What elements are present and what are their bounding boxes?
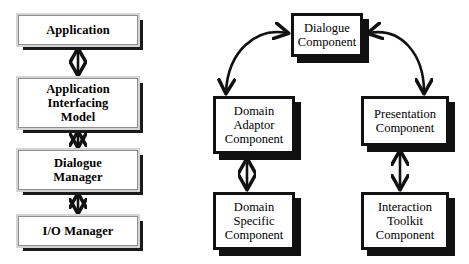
node-application-label: Application [46, 23, 110, 37]
node-dialogue-manager[interactable]: DialogueManager [18, 150, 138, 190]
node-dialogue-component[interactable]: DialogueComponent [291, 13, 363, 57]
node-interaction-toolkit-component-label: InteractionToolkitComponent [376, 200, 434, 242]
node-domain-adaptor-component-label: DomainAdaptorComponent [225, 104, 283, 146]
connector-dialogue-to-domain-adaptor [226, 32, 287, 92]
node-dialogue-manager-label: DialogueManager [53, 156, 102, 184]
node-application-interfacing-model-label: ApplicationInterfacingModel [46, 82, 110, 124]
node-domain-adaptor-component[interactable]: DomainAdaptorComponent [213, 96, 295, 154]
node-io-manager-label: I/O Manager [43, 224, 114, 238]
node-application-interfacing-model[interactable]: ApplicationInterfacingModel [18, 78, 138, 128]
node-interaction-toolkit-component[interactable]: InteractionToolkitComponent [361, 192, 449, 250]
node-application[interactable]: Application [18, 15, 138, 45]
node-presentation-component[interactable]: PresentationComponent [361, 96, 449, 146]
node-dialogue-component-label: DialogueComponent [298, 21, 356, 49]
node-domain-specific-component[interactable]: DomainSpecificComponent [213, 192, 295, 250]
diagram-canvas: Application ApplicationInterfacingModel … [0, 0, 469, 264]
node-io-manager[interactable]: I/O Manager [18, 216, 138, 246]
node-domain-specific-component-label: DomainSpecificComponent [225, 200, 283, 242]
node-presentation-component-label: PresentationComponent [374, 107, 436, 135]
connector-dialogue-to-presentation [369, 32, 424, 92]
